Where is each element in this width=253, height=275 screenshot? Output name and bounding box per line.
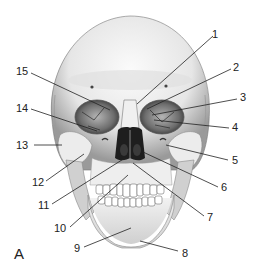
label-8: 8: [182, 248, 188, 259]
label-13: 13: [16, 140, 28, 151]
skull-illustration: [0, 0, 253, 275]
skull-diagram: 1 2 3 4 5 6 7 8 9 10 11 12 13 14 15 A: [0, 0, 253, 275]
label-7: 7: [207, 212, 213, 223]
label-10: 10: [54, 223, 66, 234]
label-1: 1: [212, 29, 218, 40]
panel-label: A: [14, 246, 24, 261]
label-11: 11: [38, 200, 49, 211]
label-2: 2: [233, 62, 239, 73]
label-4: 4: [232, 122, 238, 133]
label-14: 14: [16, 103, 28, 114]
label-3: 3: [240, 92, 246, 103]
teeth: [96, 184, 164, 207]
label-9: 9: [74, 243, 80, 254]
label-15: 15: [16, 66, 28, 77]
label-12: 12: [32, 177, 44, 188]
label-6: 6: [221, 182, 227, 193]
label-5: 5: [232, 155, 238, 166]
